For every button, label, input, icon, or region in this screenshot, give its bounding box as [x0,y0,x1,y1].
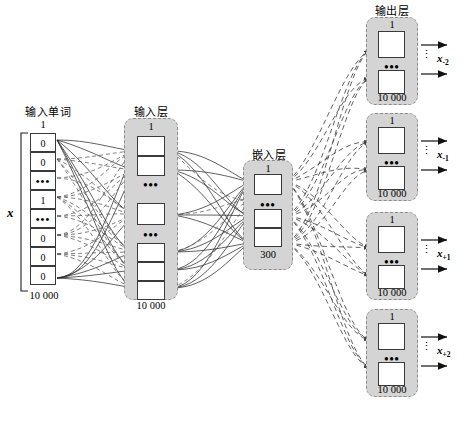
output-label-sub: +1 [443,253,451,262]
input-word-title: 输入单词 [8,103,88,119]
output-vdots: ⋮ [420,345,432,348]
word2vec-skipgram-diagram: 输入单词 1 x 0 0 ••• 1 ••• 0 0 0 10 000 输入层 … [0,0,468,422]
output-layer-unit [378,166,405,190]
input-layer-unit [137,156,165,176]
output-layer-bottom-count: 10 000 [366,188,418,199]
input-word-top-index: 1 [26,119,60,130]
embedding-layer-unit [254,209,282,228]
input-layer-unit [137,243,165,262]
output-vdots: ⋮ [420,53,432,56]
input-layer-unit [137,203,165,225]
output-label: x-2 [437,52,449,67]
input-vector-cell: 0 [30,266,56,285]
output-layer-top-index: 1 [366,214,418,225]
output-layer-unit [378,70,405,94]
input-vector-cell: 0 [30,228,56,247]
output-layer-bottom-count: 10 000 [366,384,418,395]
output-layer-unit [378,226,405,253]
embedding-layer-unit [254,228,282,247]
input-layer-top-index: 1 [124,121,178,132]
input-layer-ellipsis: ••• [124,179,178,191]
output-vdots: ⋮ [420,149,432,152]
input-vector-cell: 1 [30,190,56,209]
input-vector-cell: 0 [30,133,56,152]
output-layer-top-index: 1 [366,19,418,30]
output-label-sub: -2 [443,58,449,67]
output-layer-unit [378,362,405,386]
input-layer-ellipsis: ••• [124,229,178,241]
embedding-layer-unit [254,174,282,195]
output-label-sub: +2 [443,350,451,359]
input-vector-cell: ••• [30,209,56,228]
output-layer-top-index: 1 [366,311,418,322]
input-layer-unit [137,136,165,156]
input-layer-unit [137,281,165,300]
output-label: x-1 [437,148,449,163]
embedding-layer-bottom-count: 300 [243,249,293,260]
input-vector-symbol: x [7,205,14,221]
output-layer-unit [378,127,405,154]
output-layer-title: 输出层 [361,2,423,18]
output-layer-unit [378,323,405,350]
input-vector-cell: 0 [30,247,56,266]
output-layer-top-index: 1 [366,115,418,126]
output-label-sub: -1 [443,154,449,163]
input-vector-cell: ••• [30,171,56,190]
output-label: x+1 [437,247,451,262]
input-layer-unit [137,262,165,281]
output-layer-bottom-count: 10 000 [366,92,418,103]
output-layer-bottom-count: 10 000 [366,287,418,298]
input-vector-cell: 0 [30,152,56,171]
input-layer-title: 输入层 [120,103,182,119]
output-vdots: ⋮ [420,248,432,251]
output-label: x+2 [437,344,451,359]
input-word-bottom-count: 10 000 [16,290,72,301]
output-layer-unit [378,265,405,289]
embedding-layer-top-index: 1 [243,163,293,174]
input-layer-bottom-count: 10 000 [124,300,178,311]
output-layer-unit [378,31,405,58]
